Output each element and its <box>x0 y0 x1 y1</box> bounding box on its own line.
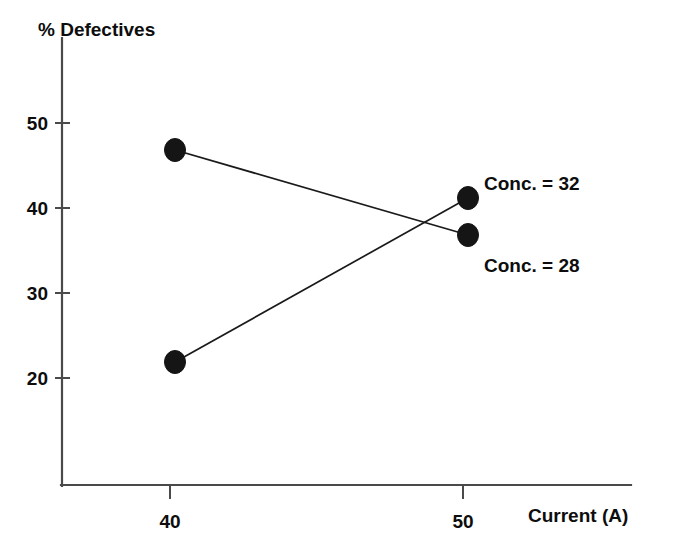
x-axis-title: Current (A) <box>528 505 628 526</box>
x-tick-label-50: 50 <box>452 511 473 532</box>
y-axis-title: % Defectives <box>38 19 155 40</box>
series-line-conc-32 <box>175 198 468 362</box>
chart-canvas: % Defectives 50 40 30 20 40 50 Current (… <box>0 0 679 551</box>
series-label-conc-28: Conc. = 28 <box>484 255 580 276</box>
y-tick-label-40: 40 <box>27 198 48 219</box>
y-tick-label-50: 50 <box>27 113 48 134</box>
x-tick-label-40: 40 <box>159 511 180 532</box>
y-tick-label-30: 30 <box>27 283 48 304</box>
data-point-conc28-current40 <box>165 139 186 162</box>
data-point-conc32-current50 <box>458 187 479 210</box>
data-point-conc32-current40 <box>165 351 186 374</box>
data-point-conc28-current50 <box>458 224 479 247</box>
interaction-plot-figure: % Defectives 50 40 30 20 40 50 Current (… <box>0 0 679 551</box>
y-tick-label-20: 20 <box>27 368 48 389</box>
series-label-conc-32: Conc. = 32 <box>484 173 580 194</box>
